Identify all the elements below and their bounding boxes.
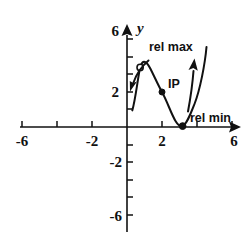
x-tick-label-6: 6 (230, 133, 238, 149)
x-tick-label--6: -6 (16, 133, 29, 149)
inflection-point-label: IP (168, 77, 180, 91)
inflection-point-marker (159, 89, 165, 95)
y-tick-label-2: 2 (112, 84, 120, 100)
y-axis (122, 24, 134, 232)
rel-max-label: rel max (149, 40, 193, 54)
y-tick-label-6: 6 (112, 23, 120, 39)
rel-min-label: rel min (190, 111, 231, 125)
rel-min-pointer-shaft (188, 71, 194, 112)
y-axis-label: y (135, 20, 144, 36)
calculus-graph-figure: -6 -2 2 6 6 2 -2 -6 y rel max IP rel min (0, 0, 249, 249)
x-tick-label--2: -2 (86, 133, 99, 149)
rel-min-pointer-arrow (188, 59, 198, 112)
y-tick-label--6: -6 (110, 208, 123, 224)
rel-min-point-marker (179, 123, 186, 130)
rel-min-pointer-head (189, 59, 198, 71)
y-tick-label--2: -2 (110, 154, 123, 170)
x-tick-label-2: 2 (158, 133, 166, 149)
coordinate-plane-svg: -6 -2 2 6 6 2 -2 -6 y rel max IP rel min (0, 0, 249, 249)
y-axis-arrowhead (122, 24, 133, 36)
